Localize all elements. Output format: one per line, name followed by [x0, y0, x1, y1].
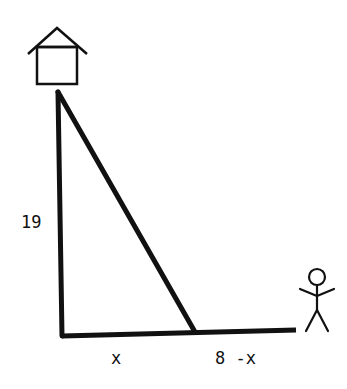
- base-line: [62, 330, 296, 336]
- base-left-label: x: [111, 348, 121, 368]
- vertical-side-line: [58, 92, 62, 336]
- height-label: 19: [21, 212, 41, 232]
- base-right-label: 8 -x: [215, 348, 256, 368]
- hypotenuse-line: [58, 92, 195, 332]
- diagram-canvas: [0, 0, 347, 389]
- house-icon: [28, 28, 87, 84]
- stick-figure-person-icon: [300, 269, 334, 331]
